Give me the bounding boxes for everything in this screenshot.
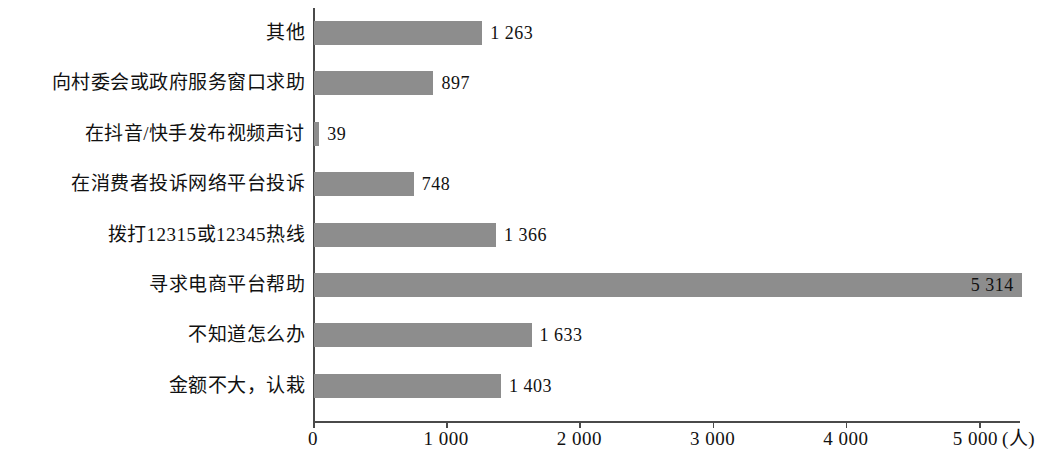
category-label: 向村委会或政府服务窗口求助 <box>0 71 305 95</box>
x-axis-tick-label: 4 000 <box>823 428 868 450</box>
bar-value-label: 1 403 <box>509 374 552 398</box>
bar <box>314 374 501 398</box>
x-axis-tick-label: 5 000(人) <box>953 428 1035 450</box>
bar <box>314 223 496 247</box>
bar-value-label: 39 <box>327 122 346 146</box>
bar-wrapper: 1 633 <box>314 323 583 347</box>
bar-value-label: 5 314 <box>971 273 1014 297</box>
bar: 5 314 <box>314 273 1022 297</box>
x-axis-unit-label: (人) <box>1002 428 1035 449</box>
chart-row: 向村委会或政府服务窗口求助897 <box>0 58 1055 108</box>
category-label: 在消费者投诉网络平台投诉 <box>0 172 305 196</box>
bar <box>314 71 433 95</box>
bar-value-label: 1 366 <box>504 223 547 247</box>
bar-chart: 其他1 263向村委会或政府服务窗口求助897在抖音/快手发布视频声讨39在消费… <box>0 0 1055 451</box>
x-axis-tick <box>979 421 981 428</box>
bar-wrapper: 897 <box>314 71 470 95</box>
x-axis-line <box>313 421 1020 423</box>
bar-wrapper: 1 366 <box>314 223 547 247</box>
tick-value: 3 000 <box>690 428 735 449</box>
bar <box>314 323 532 347</box>
category-label: 拨打12315或12345热线 <box>0 223 305 247</box>
chart-row: 在消费者投诉网络平台投诉748 <box>0 159 1055 209</box>
x-axis-tick <box>846 421 848 428</box>
chart-row: 寻求电商平台帮助5 314 <box>0 260 1055 310</box>
tick-value: 1 000 <box>424 428 469 449</box>
bar <box>314 21 482 45</box>
category-label: 寻求电商平台帮助 <box>0 273 305 297</box>
category-label: 不知道怎么办 <box>0 323 305 347</box>
chart-row: 其他1 263 <box>0 8 1055 58</box>
chart-row: 拨打12315或12345热线1 366 <box>0 210 1055 260</box>
category-label: 金额不大，认栽 <box>0 374 305 398</box>
category-label: 其他 <box>0 21 305 45</box>
x-axis-tick <box>713 421 715 428</box>
bar-wrapper: 1 403 <box>314 374 552 398</box>
x-axis-tick-label: 0 <box>308 428 318 450</box>
x-axis-tick <box>446 421 448 428</box>
bar-value-label: 748 <box>422 172 451 196</box>
tick-value: 2 000 <box>557 428 602 449</box>
bar-wrapper: 39 <box>314 122 346 146</box>
tick-value: 4 000 <box>823 428 868 449</box>
x-axis-tick <box>579 421 581 428</box>
x-axis-tick-label: 1 000 <box>424 428 469 450</box>
bar <box>314 172 414 196</box>
tick-value: 5 000 <box>953 428 998 449</box>
bar-wrapper: 5 314 <box>314 273 1022 297</box>
chart-row: 金额不大，认栽1 403 <box>0 361 1055 411</box>
bar-wrapper: 748 <box>314 172 450 196</box>
category-label: 在抖音/快手发布视频声讨 <box>0 122 305 146</box>
x-axis-tick <box>313 421 315 428</box>
chart-row: 在抖音/快手发布视频声讨39 <box>0 109 1055 159</box>
x-axis-tick-label: 3 000 <box>690 428 735 450</box>
bar-value-label: 1 633 <box>540 323 583 347</box>
tick-value: 0 <box>308 428 318 449</box>
x-axis-tick-label: 2 000 <box>557 428 602 450</box>
bar <box>314 122 319 146</box>
bar-value-label: 897 <box>441 71 470 95</box>
chart-row: 不知道怎么办1 633 <box>0 310 1055 360</box>
bar-value-label: 1 263 <box>490 21 533 45</box>
bar-wrapper: 1 263 <box>314 21 533 45</box>
